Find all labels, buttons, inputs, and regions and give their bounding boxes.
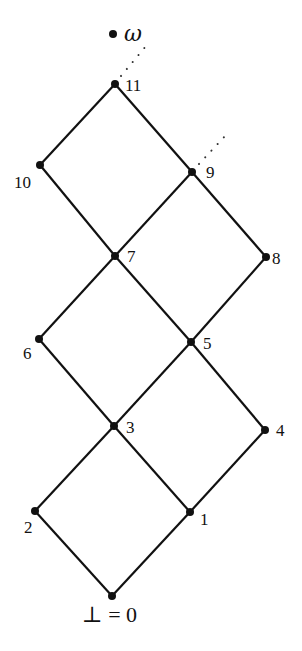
node-2 (31, 507, 39, 515)
node-omega (109, 30, 117, 38)
edge-5-7 (115, 256, 191, 342)
edges (35, 84, 266, 596)
label-10: 10 (14, 173, 31, 192)
edge-4-5 (191, 342, 265, 430)
node-9 (188, 168, 196, 176)
node-1 (186, 508, 194, 516)
edge-5-8 (191, 257, 266, 342)
label-6: 6 (23, 344, 32, 363)
label-7: 7 (127, 247, 136, 266)
edge-9-11 (115, 84, 192, 172)
nodes (31, 30, 270, 600)
node-10 (36, 161, 44, 169)
node-3 (110, 422, 118, 430)
label-4: 4 (276, 421, 285, 440)
lattice-diagram: ω 11 10 9 7 8 6 5 3 4 2 1 ⊥ = 0 (0, 0, 302, 651)
node-8 (262, 253, 270, 261)
edge-7-10 (40, 165, 115, 256)
label-omega: ω (124, 21, 142, 46)
edge-2-3 (35, 426, 114, 511)
edge-6-7 (39, 256, 115, 339)
edge-10-11 (40, 84, 115, 165)
label-5: 5 (203, 334, 212, 353)
label-8: 8 (272, 249, 281, 268)
label-bottom: ⊥ = 0 (82, 602, 137, 627)
node-0 (108, 592, 116, 600)
label-9: 9 (206, 163, 215, 182)
edge-1-3 (114, 426, 190, 512)
edge-1-4 (190, 430, 265, 512)
node-6 (35, 335, 43, 343)
edge-3-5 (114, 342, 191, 426)
node-7 (111, 252, 119, 260)
node-11 (111, 80, 119, 88)
dotted-line-11-to-omega (121, 46, 146, 76)
label-3: 3 (126, 418, 135, 437)
node-4 (261, 426, 269, 434)
dotted-continuations (121, 46, 226, 164)
dotted-line-9-upward (199, 135, 226, 164)
edge-3-6 (39, 339, 114, 426)
edge-0-2 (35, 511, 112, 596)
labels: ω 11 10 9 7 8 6 5 3 4 2 1 ⊥ = 0 (14, 21, 285, 627)
label-11: 11 (125, 76, 141, 95)
edge-0-1 (112, 512, 190, 596)
node-5 (187, 338, 195, 346)
label-1: 1 (200, 510, 209, 529)
edge-8-9 (192, 172, 266, 257)
label-2: 2 (24, 518, 33, 537)
edge-7-9 (115, 172, 192, 256)
